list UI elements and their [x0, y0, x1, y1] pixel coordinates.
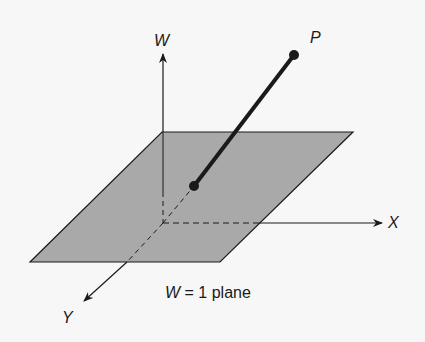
point-p — [289, 50, 299, 60]
w-axis-label: W — [154, 33, 169, 49]
point-p-label: P — [310, 30, 321, 46]
x-axis-label: X — [388, 215, 399, 231]
plane-caption-rest: = 1 plane — [180, 284, 251, 301]
plane-caption: W = 1 plane — [165, 285, 251, 301]
plane-caption-var: W — [165, 284, 180, 301]
y-axis-label: Y — [62, 310, 73, 326]
y-axis — [84, 262, 127, 301]
projected-point — [189, 181, 199, 191]
homogeneous-coordinates-diagram: W P X Y W = 1 plane — [0, 0, 425, 342]
w1-plane — [30, 132, 353, 262]
